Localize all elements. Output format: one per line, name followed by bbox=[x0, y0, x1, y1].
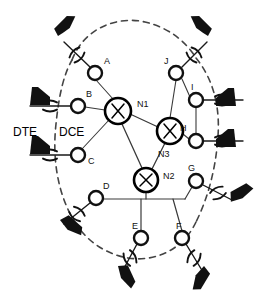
access-node-h[interactable] bbox=[189, 134, 203, 148]
link-i-j bbox=[182, 79, 190, 97]
diagram-canvas: A B C D E F G H I J N1 N2 N3 DTE DCE bbox=[0, 0, 266, 303]
legend-labels: DTE DCE bbox=[13, 125, 84, 139]
switch-node-n2[interactable] bbox=[134, 168, 158, 192]
link-j-n3 bbox=[170, 80, 176, 118]
label-d: D bbox=[103, 181, 110, 191]
label-n1: N1 bbox=[137, 99, 149, 109]
label-i: I bbox=[191, 82, 194, 92]
link-b-n1 bbox=[85, 107, 105, 110]
dte-terminals bbox=[30, 12, 255, 293]
terminal-i bbox=[216, 88, 236, 106]
cloud-arc-left bbox=[55, 60, 76, 224]
cloud-arc-top bbox=[72, 20, 196, 60]
label-g: G bbox=[188, 163, 195, 173]
label-dce: DCE bbox=[59, 125, 84, 139]
access-node-e[interactable] bbox=[134, 231, 148, 245]
link-a-n1 bbox=[96, 80, 113, 99]
lead-a bbox=[64, 42, 90, 67]
label-dte: DTE bbox=[13, 125, 37, 139]
access-node-f[interactable] bbox=[175, 231, 189, 245]
link-n1-n3 bbox=[130, 114, 158, 127]
link-c-n1 bbox=[82, 120, 109, 149]
trunk-links bbox=[122, 114, 165, 169]
terminal-e bbox=[115, 262, 138, 291]
label-b: B bbox=[86, 89, 92, 99]
bus-drop-g bbox=[185, 187, 192, 199]
label-e: E bbox=[132, 221, 138, 231]
access-node-c[interactable] bbox=[71, 148, 85, 162]
terminal-g bbox=[226, 181, 255, 203]
access-node-a[interactable] bbox=[88, 66, 102, 80]
terminal-j bbox=[187, 12, 214, 38]
label-f: F bbox=[176, 221, 182, 231]
access-node-b[interactable] bbox=[71, 99, 85, 113]
network-topology-diagram: A B C D E F G H I J N1 N2 N3 DTE DCE bbox=[0, 0, 266, 303]
label-c: C bbox=[88, 156, 95, 166]
access-node-i[interactable] bbox=[189, 93, 203, 107]
link-n1-n2 bbox=[122, 124, 142, 168]
access-node-d[interactable] bbox=[89, 191, 103, 205]
label-a: A bbox=[104, 56, 110, 66]
terminal-a bbox=[52, 12, 79, 38]
access-node-j[interactable] bbox=[169, 66, 183, 80]
label-n3: N3 bbox=[158, 149, 170, 159]
label-h: H bbox=[180, 123, 187, 133]
label-n2: N2 bbox=[163, 171, 175, 181]
label-j: J bbox=[164, 56, 169, 66]
access-node-g[interactable] bbox=[189, 174, 203, 188]
switch-node-n1[interactable] bbox=[105, 98, 131, 124]
link-h-n3 bbox=[183, 134, 189, 139]
terminal-b bbox=[30, 87, 50, 105]
